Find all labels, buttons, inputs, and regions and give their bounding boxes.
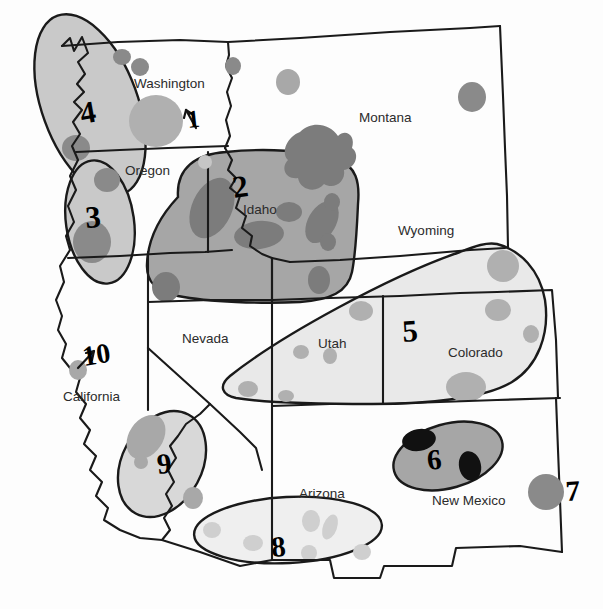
marker-idaho-panhandle <box>225 57 241 75</box>
state-label-california: California <box>63 389 121 404</box>
region-2-blob-5 <box>324 193 340 211</box>
region-5-blob-5 <box>349 301 373 321</box>
mt-wy-east-border <box>500 26 508 248</box>
marker-montana-east <box>458 82 486 112</box>
region-number-8[interactable]: 8 <box>270 530 287 563</box>
state-label-utah: Utah <box>318 336 347 351</box>
region-number-3[interactable]: 3 <box>84 199 102 235</box>
region-8-blob-6 <box>353 544 371 560</box>
state-label-idaho: Idaho <box>243 202 277 217</box>
region-5-blob-3 <box>523 325 539 343</box>
region-6-outline[interactable] <box>385 410 510 502</box>
marker-washington-central <box>129 95 183 147</box>
region-number-10[interactable]: 10 <box>80 337 113 372</box>
region-5-blob-2 <box>485 299 511 321</box>
region-8-blob-3 <box>302 510 320 532</box>
state-label-oregon: Oregon <box>125 163 170 178</box>
region-5-blob-6 <box>293 345 309 359</box>
region-number-5[interactable]: 5 <box>401 313 419 349</box>
region-8-blob-1 <box>203 522 221 538</box>
state-label-colorado: Colorado <box>448 345 503 360</box>
region-9-blob-3 <box>183 487 203 509</box>
state-label-washington: Washington <box>134 76 205 91</box>
map-canvas: Washington Oregon Idaho Montana Wyoming … <box>0 0 603 609</box>
region-2-blob-7 <box>308 266 330 294</box>
map-svg: Washington Oregon Idaho Montana Wyoming … <box>0 0 603 609</box>
state-label-new-mexico: New Mexico <box>432 493 506 508</box>
region-number-1[interactable]: 1 <box>186 105 201 133</box>
region-4-blob-1 <box>113 49 131 65</box>
nm-east-border <box>556 398 562 552</box>
region-5-blob-8 <box>238 381 258 397</box>
region-3-blob-1 <box>94 168 120 192</box>
region-9-blob-2 <box>134 455 148 469</box>
region-8-blob-2 <box>243 535 263 551</box>
marker-oregon-east <box>198 155 212 169</box>
marker-7-dot[interactable] <box>528 474 564 510</box>
state-label-montana: Montana <box>359 110 412 125</box>
mt-north-border <box>228 26 500 42</box>
region-number-7[interactable]: 7 <box>565 474 581 507</box>
region-2-blob-6 <box>320 233 336 251</box>
state-label-nevada: Nevada <box>182 331 229 346</box>
region-2-blob-8 <box>152 272 180 302</box>
region-4-blob-2 <box>131 58 149 76</box>
region-5-blob-9 <box>278 390 294 402</box>
marker-montana-north <box>276 69 300 95</box>
region-2-blob-3 <box>276 202 302 222</box>
region-5-blob-4 <box>446 372 486 402</box>
region-8-blob-5 <box>301 545 317 561</box>
region-5-blob-1 <box>487 250 519 282</box>
region-6-group[interactable] <box>385 410 510 502</box>
state-label-wyoming: Wyoming <box>398 223 454 238</box>
state-label-arizona: Arizona <box>299 486 345 501</box>
region-8-group[interactable] <box>192 492 383 568</box>
